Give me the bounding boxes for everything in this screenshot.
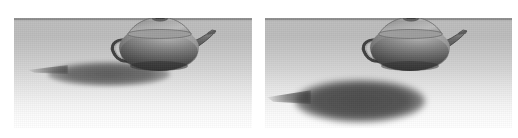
panel-left-attached-shadow bbox=[14, 18, 252, 128]
teapot-lid-rim bbox=[379, 30, 443, 39]
detached-shadow-body bbox=[295, 80, 425, 122]
teapot-base-contact bbox=[381, 61, 439, 71]
figure-root bbox=[0, 0, 518, 138]
panel-right-detached-shadow bbox=[265, 18, 512, 128]
teapot-lid-knob-top bbox=[406, 18, 416, 19]
teapot-right bbox=[353, 18, 471, 76]
teapot-lid-knob-top bbox=[155, 18, 165, 19]
teapot-base-contact bbox=[130, 61, 188, 71]
teapot-lid-rim bbox=[128, 30, 192, 39]
teapot-left bbox=[102, 18, 220, 76]
